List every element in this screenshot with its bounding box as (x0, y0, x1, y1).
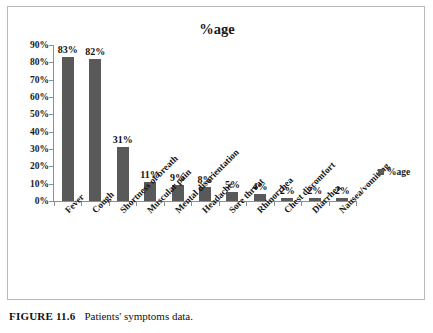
y-axis-tick-mark (49, 132, 53, 133)
y-axis-tick-mark (49, 80, 53, 81)
figure-caption-label: FIGURE 11.6 (9, 310, 75, 322)
y-axis-tick-mark (49, 97, 53, 98)
x-axis-tick-mark (81, 202, 82, 206)
y-axis-tick-label: 30% (11, 144, 49, 154)
y-axis-tick-mark (49, 166, 53, 167)
bar-value-label: 82% (79, 46, 111, 57)
y-axis-tick-label: 90% (11, 40, 49, 50)
y-axis-tick-mark (49, 62, 53, 63)
y-axis-tick-label: 80% (11, 57, 49, 67)
y-axis-tick-label: 10% (11, 179, 49, 189)
x-axis-tick-mark (219, 202, 220, 206)
chart-legend: %age (378, 167, 410, 177)
x-axis-tick-mark (246, 202, 247, 206)
y-axis-tick-label: 60% (11, 92, 49, 102)
y-axis-tick-mark (49, 149, 53, 150)
figure-frame: %age 0%10%20%30%40%50%60%70%80%90% Fever… (7, 6, 425, 300)
bar (62, 57, 74, 201)
chart-title: %age (8, 21, 426, 38)
y-axis-tick-mark (49, 114, 53, 115)
y-axis-tick-label: 40% (11, 127, 49, 137)
y-axis-tick-label: 0% (11, 196, 49, 206)
y-axis-tick-labels: 0%10%20%30%40%50%60%70%80%90% (8, 7, 49, 301)
x-axis-tick-mark (274, 202, 275, 206)
x-axis-tick-mark (301, 202, 302, 206)
x-axis-tick-mark (109, 202, 110, 206)
x-axis-tick-mark (164, 202, 165, 206)
y-axis-tick-label: 20% (11, 161, 49, 171)
y-axis-tick-mark (49, 184, 53, 185)
bar-value-label: 2% (326, 185, 358, 196)
bar-value-label: 31% (107, 134, 139, 145)
x-axis-tick-mark (191, 202, 192, 206)
y-axis-tick-mark (49, 201, 53, 202)
x-axis-tick-mark (54, 202, 55, 206)
x-axis-tick-mark (329, 202, 330, 206)
bar (89, 59, 101, 201)
x-axis-tick-mark (356, 202, 357, 206)
figure-caption-text: Patients' symptoms data. (84, 310, 193, 322)
figure-caption: FIGURE 11.6Patients' symptoms data. (9, 310, 193, 322)
y-axis-tick-label: 70% (11, 75, 49, 85)
x-axis-tick-mark (136, 202, 137, 206)
legend-swatch-icon (378, 169, 384, 175)
legend-series-label: %age (387, 167, 410, 177)
bar (117, 147, 129, 201)
y-axis-tick-label: 50% (11, 109, 49, 119)
